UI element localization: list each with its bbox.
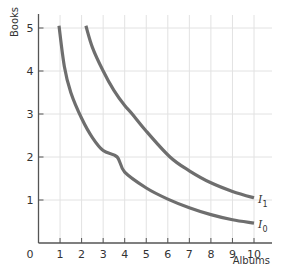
curve-i1 (86, 26, 254, 198)
curve-i0 (59, 26, 254, 223)
y-tick-label: 2 (27, 151, 34, 164)
x-tick-label: 1 (57, 248, 64, 261)
gridlines (39, 15, 273, 243)
y-tick-label: 3 (27, 108, 34, 121)
y-tick-label: 5 (27, 22, 34, 35)
x-tick-label: 8 (207, 248, 214, 261)
axes (39, 14, 273, 243)
x-tick-label: 7 (186, 248, 193, 261)
curves: I0I1 (59, 26, 268, 234)
origin-label: 0 (27, 248, 34, 261)
x-tick-label: 6 (164, 248, 171, 261)
x-tick-label: 3 (100, 248, 107, 261)
curve-i1-label-subscript: 1 (263, 200, 268, 209)
x-tick-label: 5 (143, 248, 150, 261)
x-axis-label: Albums (233, 255, 270, 266)
curve-i0-label-subscript: 0 (263, 225, 268, 234)
indifference-curve-chart: 1234567891012345 I0I1 0 Albums Books (0, 0, 288, 277)
y-tick-label: 1 (27, 194, 34, 207)
x-tick-label: 4 (121, 248, 128, 261)
x-tick-label: 2 (78, 248, 85, 261)
y-axis-label: Books (9, 7, 20, 37)
y-tick-label: 4 (27, 65, 34, 78)
